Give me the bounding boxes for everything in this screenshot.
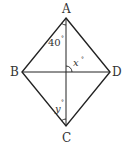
vertex-label-d: D <box>112 65 122 79</box>
angle-label-40: 40 <box>48 37 61 48</box>
angle-arc-x <box>66 66 72 72</box>
vertex-label-b: B <box>10 65 19 79</box>
vertex-label-c: C <box>62 131 71 145</box>
angle-degree-x: ° <box>81 55 84 62</box>
rhombus-diagram: A B D C 40 ° x ° y ° <box>0 0 128 148</box>
angle-arc-a <box>62 23 66 25</box>
angle-degree-40: ° <box>61 34 64 41</box>
angle-degree-y: ° <box>61 98 64 105</box>
angle-arc-c <box>62 119 66 121</box>
angle-label-x: x <box>73 57 79 68</box>
angle-label-y: y <box>54 103 61 114</box>
vertex-label-a: A <box>61 2 71 16</box>
